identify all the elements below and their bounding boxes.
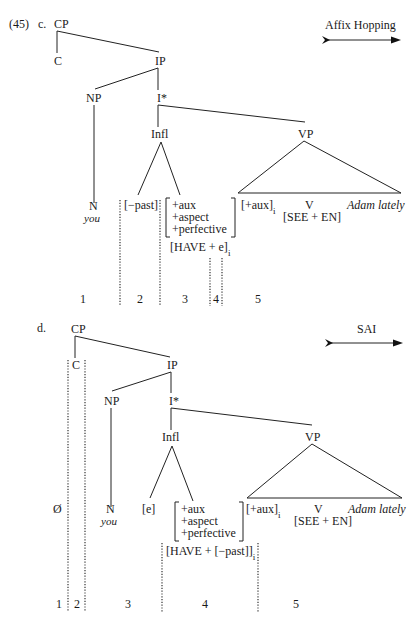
segment-5: 5 — [255, 292, 261, 306]
adam-lately: Adam lately — [346, 198, 405, 212]
rule-label-affix-hopping: Affix Hopping — [325, 18, 396, 32]
segment-1: 1 — [56, 597, 62, 611]
node-np: NP — [86, 91, 102, 105]
node-cp: CP — [71, 322, 86, 336]
node-n: N — [106, 502, 115, 516]
segment-4: 4 — [213, 292, 219, 306]
segment-4: 4 — [202, 597, 208, 611]
node-vp: VP — [305, 430, 321, 444]
rule-label-sai: SAI — [357, 322, 376, 336]
null-complementizer: Ø — [53, 502, 62, 516]
feature-past: [−past] — [124, 198, 158, 212]
tree-c: (45) c. Affix Hopping CP C IP NP I* Infl… — [9, 17, 405, 306]
node-ip: IP — [155, 54, 166, 68]
empty-e: [e] — [142, 502, 155, 516]
node-np: NP — [104, 394, 120, 408]
node-ip: IP — [167, 358, 178, 372]
word-you: you — [83, 212, 100, 224]
segment-2: 2 — [74, 597, 80, 611]
node-infl: Infl — [151, 127, 169, 141]
see-en: [SEE + EN] — [283, 210, 341, 224]
node-c: C — [54, 54, 62, 68]
adam-lately: Adam lately — [347, 502, 406, 516]
have-e: [HAVE + e]i — [170, 240, 231, 258]
feature-perfective: +perfective — [172, 222, 227, 236]
node-n: N — [89, 199, 98, 213]
node-c: C — [72, 358, 80, 372]
word-you: you — [100, 515, 117, 527]
segment-3: 3 — [182, 292, 188, 306]
node-cp: CP — [54, 17, 69, 31]
see-en: [SEE + EN] — [294, 514, 352, 528]
arrow-right-icon — [322, 36, 401, 44]
aux-trace: [+aux]i — [241, 198, 276, 216]
segment-1: 1 — [80, 292, 86, 306]
syntax-tree-figure: (45) c. Affix Hopping CP C IP NP I* Infl… — [0, 0, 419, 631]
aux-trace: [+aux]i — [246, 502, 281, 520]
arrow-right-icon — [325, 339, 403, 347]
tree-d: d. SAI CP C IP NP I* Infl VP Ø N you [e] — [37, 321, 406, 612]
part-c-label: c. — [38, 17, 46, 31]
node-ibar: I* — [169, 394, 179, 408]
example-number: (45) — [9, 17, 29, 31]
node-vp: VP — [298, 127, 314, 141]
segment-3: 3 — [125, 597, 131, 611]
have-past: [HAVE + [−past]]i — [166, 544, 256, 562]
node-infl: Infl — [162, 430, 180, 444]
node-ibar: I* — [157, 91, 167, 105]
feature-perfective: +perfective — [181, 526, 236, 540]
segment-2: 2 — [137, 292, 143, 306]
part-d-label: d. — [37, 321, 46, 335]
segment-5: 5 — [293, 597, 299, 611]
